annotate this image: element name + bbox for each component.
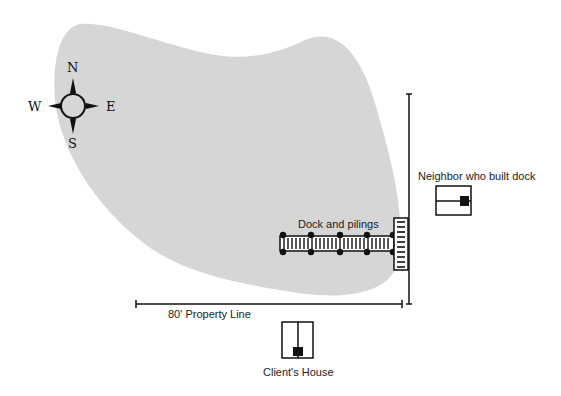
compass-north-label: N [67, 61, 78, 74]
compass-south-label: S [68, 137, 77, 150]
client-house-icon [282, 322, 313, 358]
dock-label: Dock and pilings [298, 219, 379, 230]
property-line-80ft [136, 300, 402, 308]
neighbor-label: Neighbor who built dock [418, 171, 535, 182]
site-diagram: N S W E Dock and pilings Neighbor who bu… [0, 0, 561, 396]
neighbor-house-icon [436, 186, 471, 215]
client-house-label: Client's House [263, 367, 334, 378]
east-property-line [406, 94, 412, 304]
compass-east-label: E [106, 100, 116, 113]
lake-shape [54, 24, 400, 296]
dock-walkway [280, 236, 394, 251]
compass-west-label: W [28, 100, 41, 113]
dock-platform [394, 218, 408, 270]
property-line-label: 80' Property Line [168, 309, 251, 320]
